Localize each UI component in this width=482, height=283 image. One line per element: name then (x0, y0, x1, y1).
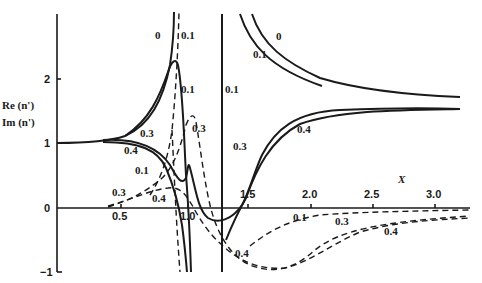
label-0.3-left: 0.3 (140, 127, 154, 139)
y-axis-label-im: Im (n') (2, 116, 35, 129)
y-tick-label-neg1: −1 (40, 266, 53, 278)
label-0.4-left: 0.4 (124, 144, 138, 156)
label-0.1-dash-top: 0.1 (181, 29, 195, 41)
x-axis-label: X (397, 173, 406, 185)
curve-re-0-right (252, 14, 460, 97)
label-0-left: 0 (155, 29, 161, 41)
y-tick-label-2: 2 (44, 73, 50, 85)
label-0.1-peak: 0.1 (181, 83, 195, 95)
label-0.4-dash-low: 0.4 (152, 192, 166, 204)
label-0.3-dash-low: 0.3 (112, 186, 126, 198)
y-tick-label-0: 0 (44, 202, 50, 214)
label-0.3-dash-mid: 0.3 (192, 122, 206, 134)
label-0.1-right: 0.1 (253, 48, 267, 60)
label-0.3-right: 0.3 (233, 140, 247, 152)
x-tick-label-3.0: 3.0 (426, 188, 441, 200)
imaginary-part-curves (108, 12, 470, 272)
refractive-index-chart: 2 1 0 −1 0.5 1.0 1.5 2.0 2.5 3.0 Re (n')… (0, 0, 482, 283)
curve-labels: 0 0.1 0.1 0.1 0 0.1 0.3 0.4 0.3 0.3 0.4 … (112, 29, 398, 259)
x-tick-label-0.5: 0.5 (112, 210, 127, 222)
y-tick-label-1: 1 (44, 137, 50, 149)
x-tick-label-2.5: 2.5 (364, 188, 379, 200)
label-0-right: 0 (276, 30, 282, 42)
y-axis-label-re: Re (n') (2, 99, 34, 112)
curve-im-0.1-tail (250, 210, 470, 246)
label-0.4-dash-trough: 0.4 (235, 247, 249, 259)
label-0.4-right: 0.4 (297, 123, 311, 135)
label-0.1-tail: 0.1 (293, 211, 307, 223)
label-0.3-tail: 0.3 (335, 215, 349, 227)
x-tick-label-2.0: 2.0 (302, 188, 317, 200)
label-0.4-tail: 0.4 (384, 225, 398, 237)
label-0.1-dash-left: 0.1 (135, 164, 149, 176)
label-0.1-vertical: 0.1 (225, 83, 239, 95)
